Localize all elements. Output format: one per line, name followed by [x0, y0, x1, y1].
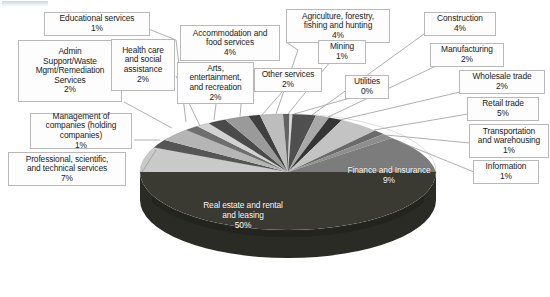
callout-transportation-warehousing[interactable]: Transportation and warehousing 1%: [469, 124, 549, 158]
inline-label-finance-insurance: Finance and Insurance 9%: [330, 166, 448, 186]
chart-canvas: Educational services 1% Admin Support/Wa…: [0, 0, 550, 297]
callout-management-companies[interactable]: Management of companies (holding compani…: [30, 113, 132, 149]
callout-arts-entertainment[interactable]: Arts, entertainment, and recreation 2%: [177, 62, 254, 104]
callout-professional-scientific[interactable]: Professional, scientific, and technical …: [8, 152, 126, 186]
callout-manufacturing[interactable]: Manufacturing 2%: [430, 43, 504, 67]
callout-other-services[interactable]: Other services 2%: [254, 68, 322, 92]
callout-utilities[interactable]: Utilities 0%: [345, 75, 389, 99]
callout-retail-trade[interactable]: Retail trade 5%: [467, 97, 539, 121]
callout-agriculture[interactable]: Agriculture, forestry, fishing and hunti…: [286, 9, 390, 43]
callout-information[interactable]: Information 1%: [473, 160, 539, 184]
callout-mining[interactable]: Mining 1%: [318, 40, 366, 64]
inline-label-real-estate: Real estate and rental and leasing 50%: [173, 201, 313, 230]
callout-health-care[interactable]: Health care and social assistance 2%: [111, 39, 175, 91]
callout-wholesale-trade[interactable]: Wholesale trade 2%: [459, 70, 545, 94]
callout-admin-support[interactable]: Admin Support/Waste Mgmt/Remediation Ser…: [18, 40, 122, 102]
callout-educational-services[interactable]: Educational services 1%: [44, 12, 150, 36]
callout-construction[interactable]: Construction 4%: [424, 12, 496, 36]
callout-accommodation-food[interactable]: Accommodation and food services 4%: [180, 25, 280, 61]
